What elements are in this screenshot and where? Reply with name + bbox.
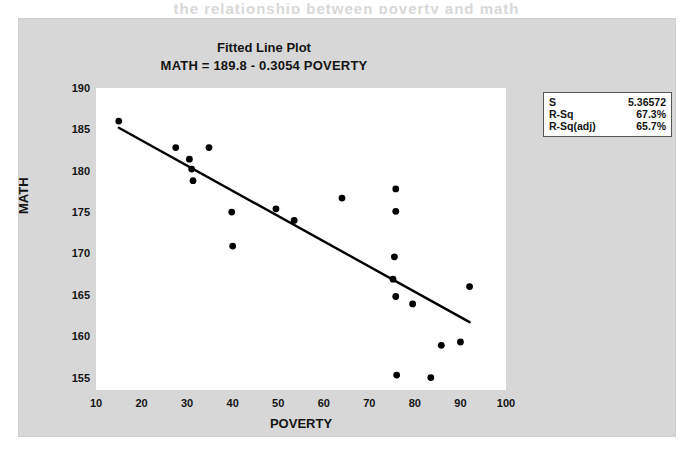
stats-row: R-Sq(adj)65.7% bbox=[549, 120, 666, 132]
stats-row: R-Sq67.3% bbox=[549, 108, 666, 120]
data-point bbox=[390, 276, 397, 283]
scatter-points bbox=[115, 118, 473, 381]
regression-fit-line bbox=[119, 128, 470, 322]
stats-row: S5.36572 bbox=[549, 96, 666, 108]
data-point bbox=[339, 195, 346, 202]
data-point bbox=[392, 186, 399, 193]
y-axis-tick-190: 190 bbox=[50, 83, 90, 94]
data-point bbox=[393, 372, 400, 379]
y-axis-title: MATH bbox=[16, 177, 31, 214]
stats-label: R-Sq bbox=[549, 108, 574, 120]
x-axis-title: POVERTY bbox=[96, 416, 506, 431]
data-point bbox=[229, 243, 236, 250]
data-point bbox=[457, 339, 464, 346]
data-point bbox=[115, 118, 122, 125]
data-point bbox=[391, 253, 398, 260]
x-axis-tick-30: 30 bbox=[167, 398, 207, 409]
fitted-line-plot-figure: Fitted Line Plot MATH = 189.8 - 0.3054 P… bbox=[18, 18, 676, 437]
data-point bbox=[186, 156, 193, 163]
plot-area bbox=[96, 88, 506, 390]
x-axis-tick-100: 100 bbox=[486, 398, 526, 409]
x-axis-tick-70: 70 bbox=[349, 398, 389, 409]
x-axis-tick-40: 40 bbox=[213, 398, 253, 409]
y-axis-tick-175: 175 bbox=[50, 207, 90, 218]
data-point bbox=[291, 217, 298, 224]
data-point bbox=[438, 342, 445, 349]
x-axis-tick-50: 50 bbox=[258, 398, 298, 409]
x-axis-tick-90: 90 bbox=[440, 398, 480, 409]
data-point bbox=[228, 209, 235, 216]
y-axis-tick-170: 170 bbox=[50, 248, 90, 259]
data-point bbox=[392, 208, 399, 215]
scatter-plot-canvas bbox=[96, 88, 506, 390]
stats-label: R-Sq(adj) bbox=[549, 120, 596, 132]
x-axis-tick-10: 10 bbox=[76, 398, 116, 409]
data-point bbox=[206, 144, 213, 151]
data-point bbox=[392, 293, 399, 300]
stats-value: 5.36572 bbox=[628, 96, 666, 108]
y-axis-tick-155: 155 bbox=[50, 373, 90, 384]
data-point bbox=[273, 205, 280, 212]
y-axis-tick-180: 180 bbox=[50, 166, 90, 177]
y-axis-tick-185: 185 bbox=[50, 124, 90, 135]
x-axis-tick-80: 80 bbox=[395, 398, 435, 409]
data-point bbox=[409, 301, 416, 308]
y-axis-tick-160: 160 bbox=[50, 331, 90, 342]
chart-regression-equation: MATH = 189.8 - 0.3054 POVERTY bbox=[18, 58, 510, 73]
x-axis-tick-60: 60 bbox=[304, 398, 344, 409]
statistics-legend-box: S5.36572R-Sq67.3%R-Sq(adj)65.7% bbox=[543, 92, 672, 137]
y-axis-tick-165: 165 bbox=[50, 290, 90, 301]
fit-line-segment bbox=[119, 128, 470, 322]
data-point bbox=[172, 144, 179, 151]
stats-value: 65.7% bbox=[636, 120, 666, 132]
data-point bbox=[190, 177, 197, 184]
data-point bbox=[427, 374, 434, 381]
data-point bbox=[188, 166, 195, 173]
page-bleed-text: the relationship between poverty and mat… bbox=[0, 0, 693, 14]
stats-value: 67.3% bbox=[636, 108, 666, 120]
chart-title: Fitted Line Plot bbox=[18, 40, 510, 55]
stats-label: S bbox=[549, 96, 556, 108]
x-axis-tick-20: 20 bbox=[122, 398, 162, 409]
data-point bbox=[466, 283, 473, 290]
